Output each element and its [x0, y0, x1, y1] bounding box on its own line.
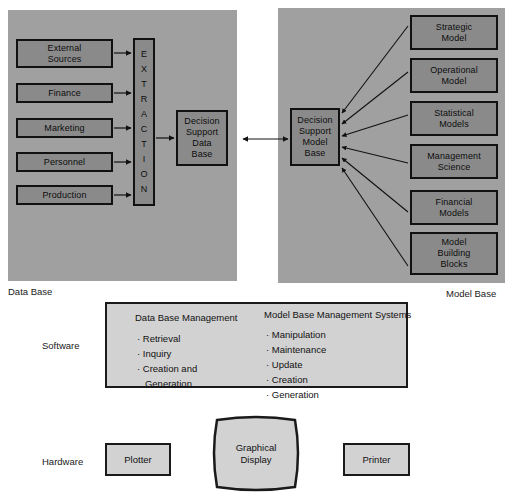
model-box-operational-model: Operational Model	[410, 58, 498, 93]
software-list-item: Retrieval	[137, 331, 197, 346]
display-label-line1: Graphical	[206, 442, 306, 454]
model-label-line1: Management	[427, 151, 481, 162]
model-label-line1: Model	[441, 237, 466, 248]
model-box-model-building-blocks: Model Building Blocks	[410, 232, 498, 275]
row-label-software: Software	[42, 340, 80, 351]
data-base-caption: Data Base	[8, 286, 52, 297]
dsmb-label-line2: Support	[299, 126, 331, 137]
dsmb-label-line1: Decision	[297, 115, 332, 126]
model-label-line1: Strategic	[436, 22, 472, 33]
extraction-letter: I	[143, 152, 146, 167]
source-label-line1: External	[48, 43, 82, 54]
dsdb-label-line2: Support	[186, 127, 218, 138]
model-label-line1: Operational	[430, 65, 478, 76]
software-left-column-title: Data Base Management	[135, 312, 237, 323]
software-right-column-list: Manipulation Maintenance Update Creation…	[266, 327, 326, 402]
extraction-letter: T	[141, 137, 147, 152]
extraction-letter: C	[141, 122, 148, 137]
dsdb-label-line4: Base	[192, 149, 213, 160]
plotter-label: Plotter	[124, 454, 151, 465]
source-box-personnel: Personnel	[16, 152, 113, 172]
extraction-letter: A	[141, 107, 147, 122]
software-left-column-list: Retrieval Inquiry Creation and Generatio…	[137, 331, 197, 391]
source-label-line1: Personnel	[44, 157, 85, 168]
model-label-line2: Models	[439, 119, 469, 130]
hardware-box-plotter: Plotter	[105, 443, 171, 476]
extraction-letter: X	[141, 62, 147, 77]
model-label-line3: Blocks	[440, 259, 467, 270]
model-base-caption: Model Base	[446, 288, 496, 299]
row-label-hardware: Hardware	[42, 456, 83, 467]
software-list-item: Maintenance	[266, 342, 326, 357]
hardware-box-printer: Printer	[343, 443, 410, 476]
source-label-line2: Sources	[48, 54, 82, 65]
source-label-line1: Production	[42, 190, 86, 201]
model-label-line2: Model	[441, 76, 466, 87]
model-label-line2: Science	[438, 162, 471, 173]
model-label-line1: Statistical	[434, 108, 474, 119]
software-list-item: Generation	[266, 387, 326, 402]
software-list-item: Creation and	[137, 361, 197, 376]
dsdb-label-line3: Data	[192, 138, 211, 149]
decision-support-model-base-box: Decision Support Model Base	[290, 108, 340, 166]
dsdb-label-line1: Decision	[184, 116, 219, 127]
software-right-column-title: Model Base Management Systems	[264, 309, 411, 320]
dsmb-label-line3: Model	[302, 137, 327, 148]
dsmb-label-line4: Base	[305, 148, 326, 159]
software-list-item: Inquiry	[137, 346, 197, 361]
model-box-strategic-model: Strategic Model	[410, 15, 498, 50]
source-box-finance: Finance	[16, 83, 113, 103]
extraction-letter: R	[141, 92, 148, 107]
display-label-line2: Display	[206, 454, 306, 466]
printer-label: Printer	[363, 454, 391, 465]
model-box-statistical-models: Statistical Models	[410, 101, 498, 136]
extraction-letter: N	[141, 182, 148, 197]
software-list-item: Creation	[266, 372, 326, 387]
dss-architecture-diagram: External Sources Finance Marketing Perso…	[0, 0, 510, 503]
decision-support-data-base-box: Decision Support Data Base	[176, 110, 228, 166]
software-list-item: Generation	[137, 376, 197, 391]
model-label-line1: Financial	[436, 197, 473, 208]
software-list-item: Update	[266, 357, 326, 372]
software-list-item: Manipulation	[266, 327, 326, 342]
source-box-external-sources: External Sources	[16, 39, 113, 68]
model-label-line2: Building	[438, 248, 471, 259]
source-box-marketing: Marketing	[16, 118, 113, 138]
model-label-line2: Models	[439, 208, 469, 219]
graphical-display-label-overlay: Graphical Display	[206, 442, 306, 466]
model-box-management-science: Management Science	[410, 144, 498, 179]
source-label-line1: Marketing	[44, 123, 84, 134]
model-label-line2: Model	[441, 33, 466, 44]
source-box-production: Production	[16, 185, 113, 205]
source-label-line1: Finance	[48, 88, 81, 99]
model-box-financial-models: Financial Models	[410, 190, 498, 225]
extraction-letter: E	[141, 47, 147, 62]
extraction-column: E X T R A C T I O N	[133, 38, 155, 206]
extraction-letter: O	[140, 167, 147, 182]
extraction-letter: T	[141, 77, 147, 92]
